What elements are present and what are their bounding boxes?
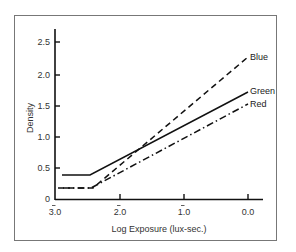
y-tick-1-5: 1.5 — [37, 101, 50, 111]
x-tick-2-0: 2.0 — [114, 207, 127, 217]
x-tick-1-0: 1.0 — [178, 207, 191, 217]
legend-red: Red — [250, 99, 267, 109]
y-tick-1-0: 1.0 — [37, 132, 50, 142]
y-tick-2-5: 2.5 — [37, 37, 50, 47]
y-axis-title: Density — [25, 102, 35, 133]
x-tick-0-0: 0.0 — [242, 207, 255, 217]
green-curve — [62, 92, 248, 175]
characteristic-curve-chart: 0 0.5 1.0 1.5 2.0 2.5 3.0 2.0 1.0 0.0 Lo… — [0, 0, 296, 252]
x-tick-3-0: 3.0 — [49, 207, 62, 217]
legend-green: Green — [250, 86, 275, 96]
x-axis-title: Log Exposure (lux-sec.) — [111, 224, 206, 234]
y-tick-labels: 0 0.5 1.0 1.5 2.0 2.5 — [37, 37, 50, 204]
y-tick-0-5: 0.5 — [37, 163, 50, 173]
x-ticks — [120, 194, 248, 199]
legend-blue: Blue — [250, 52, 268, 62]
blue-curve — [58, 57, 248, 188]
y-tick-0: 0 — [45, 194, 50, 204]
x-tick-labels: 3.0 2.0 1.0 0.0 — [49, 206, 255, 218]
y-tick-2-0: 2.0 — [37, 70, 50, 80]
